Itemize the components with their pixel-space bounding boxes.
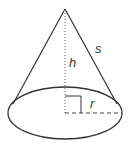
label-radius: r — [90, 96, 95, 111]
cone-diagram: s h r — [0, 0, 129, 149]
label-slant-height: s — [95, 41, 102, 56]
label-height: h — [69, 55, 76, 70]
right-angle-marker — [65, 96, 81, 113]
